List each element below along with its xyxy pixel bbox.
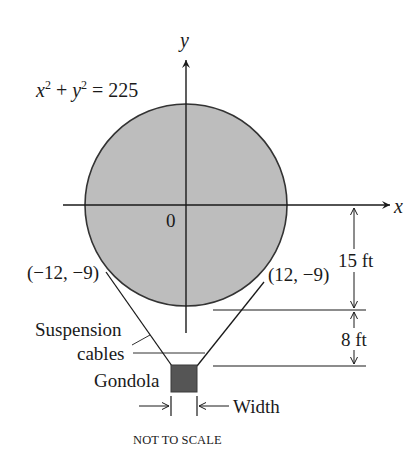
gondola [171, 365, 197, 392]
origin-label: 0 [166, 211, 176, 230]
eq-rhs: = 225 [87, 79, 138, 101]
y-axis-label: y [180, 30, 189, 50]
point-left-label: (−12, −9) [27, 263, 99, 282]
suspension-leader [132, 335, 150, 345]
width-label: Width [233, 397, 280, 416]
x-axis-label: x [394, 196, 403, 216]
suspension-label: Suspension [35, 320, 122, 339]
cables-label: cables [77, 344, 124, 363]
gondola-label: Gondola [94, 371, 159, 390]
dim-8ft-label: 8 ft [341, 330, 367, 349]
dim-15ft-label: 15 ft [338, 251, 373, 270]
circle-equation: x2 + y2 = 225 [36, 80, 138, 100]
eq-x: x [36, 79, 45, 101]
eq-plus: + [51, 79, 72, 101]
balloon-diagram [0, 0, 417, 467]
point-right-label: (12, −9) [268, 265, 329, 284]
not-to-scale-note: NOT TO SCALE [133, 434, 222, 447]
eq-y: y [72, 79, 81, 101]
